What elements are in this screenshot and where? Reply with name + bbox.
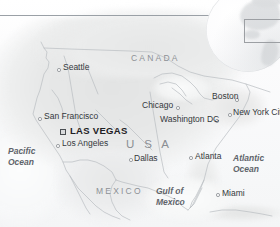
city-label-san-francisco: San Francisco [44,112,98,121]
city-marker-las-vegas [60,129,66,135]
city-label-atlanta: Atlanta [195,152,221,161]
ocean-label-gulf-line1: Gulf of [156,186,183,196]
city-marker-chicago [176,106,180,110]
city-label-miami: Miami [222,189,245,198]
location-map: CANADA U S A MEXICO Pacific Ocean Atlant… [0,0,280,227]
city-label-boston: Boston [212,92,238,101]
ocean-label-atlantic-line2: Ocean [233,164,264,175]
country-label-usa: U S A [126,139,172,151]
city-marker-seattle [57,68,61,72]
country-label-canada: CANADA [131,54,180,63]
globe-locator-frame [244,19,280,43]
country-label-mexico: MEXICO [96,187,143,196]
city-marker-dallas [129,158,133,162]
city-label-las-vegas: LAS VEGAS [70,126,128,136]
ocean-label-atlantic: Atlantic Ocean [233,153,264,175]
city-label-seattle: Seattle [63,63,89,72]
city-marker-new-york-city [228,113,232,117]
ocean-label-gulf-of-mexico: Gulf of Mexico [156,186,185,208]
city-marker-los-angeles [56,144,60,148]
ocean-label-atlantic-line1: Atlantic [233,153,264,163]
city-marker-san-francisco [38,117,42,121]
top-divider-line [0,15,232,16]
ocean-label-pacific-line1: Pacific [8,146,35,156]
city-label-dallas: Dallas [134,154,158,163]
ocean-label-pacific-line2: Ocean [8,157,35,168]
ocean-label-pacific: Pacific Ocean [8,146,35,168]
city-marker-miami [216,193,220,197]
city-marker-atlanta [189,156,193,160]
city-label-washington-dc: Washington DC [160,115,219,124]
city-label-new-york-city: New York City [233,108,280,117]
city-label-chicago: Chicago [142,101,173,110]
city-label-los-angeles: Los Angeles [62,139,108,148]
ocean-label-gulf-line2: Mexico [156,197,185,208]
